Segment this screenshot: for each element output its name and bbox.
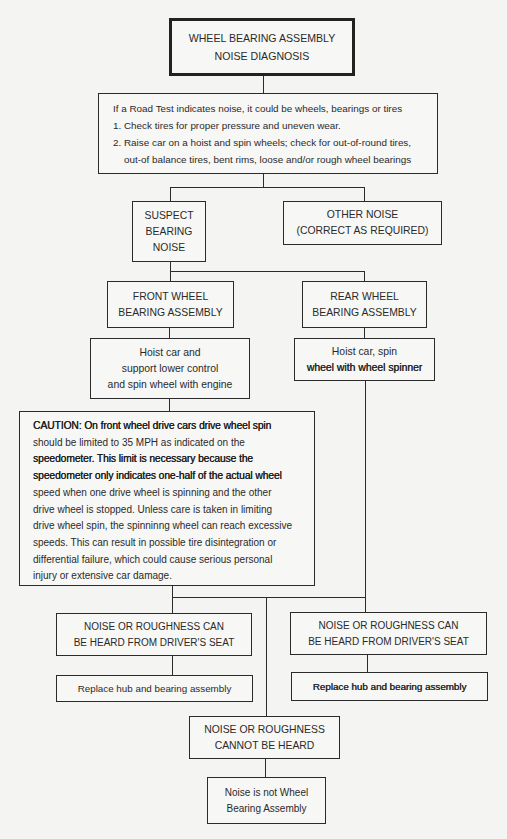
caution-line: speedometer. This limit is necessary bec… (33, 451, 253, 468)
rear-hoist-box: Hoist car, spin wheel with wheel spinner (294, 338, 435, 381)
box-line: BEARING ASSEMBLY (118, 305, 222, 321)
other-noise-box: OTHER NOISE (CORRECT AS REQUIRED) (283, 201, 442, 245)
connector (364, 271, 365, 281)
caution-line: should be limited to 35 MPH as indicated… (33, 435, 245, 452)
front-wheel-box: FRONT WHEEL BEARING ASSEMBLY (107, 281, 234, 328)
box-line: Noise is not Wheel (225, 785, 308, 801)
road-test-line: out-of balance tires, bent rims, loose a… (113, 151, 411, 168)
cannot-hear-box: NOISE OR ROUGHNESS CANNOT BE HEARD (189, 716, 340, 759)
connector (172, 655, 173, 675)
box-line: support lower control (122, 361, 218, 377)
box-line: BE HEARD FROM DRIVER'S SEAT (308, 634, 469, 650)
box-line: NOISE OR ROUGHNESS CAN (318, 618, 458, 634)
connector (364, 327, 365, 338)
caution-line: speeds. This can result in possible tire… (33, 535, 276, 552)
rear-wheel-box: REAR WHEEL BEARING ASSEMBLY (302, 281, 427, 328)
box-line: wheel with wheel spinner (307, 360, 423, 376)
box-line: Hoist car and (139, 345, 200, 361)
box-line: BEARING (146, 224, 193, 240)
connector (263, 173, 264, 187)
suspect-bearing-noise-box: SUSPECT BEARING NOISE (132, 201, 206, 262)
connector (169, 398, 170, 411)
title-line: NOISE DIAGNOSIS (215, 47, 310, 65)
box-line: FRONT WHEEL (133, 289, 208, 305)
left-replace-box: Replace hub and bearing assembly (56, 675, 253, 702)
road-test-line: 1. Check tires for proper pressure and u… (113, 117, 341, 134)
box-line: Bearing Assembly (226, 801, 306, 817)
caution-line: CAUTION: On front wheel drive cars drive… (33, 418, 271, 435)
box-line: Hoist car, spin (332, 344, 397, 360)
connector (170, 271, 365, 272)
caution-box: CAUTION: On front wheel drive cars drive… (19, 411, 315, 586)
box-line: CANNOT BE HEARD (215, 738, 315, 754)
box-line: and spin wheel with engine (108, 377, 233, 393)
connector (265, 758, 266, 777)
right-heard-box: NOISE OR ROUGHNESS CAN BE HEARD FROM DRI… (290, 612, 487, 655)
caution-line: drive wheel spin, the spinninng wheel ca… (33, 518, 292, 535)
connector (172, 597, 366, 598)
box-line: (CORRECT AS REQUIRED) (296, 223, 428, 239)
connector (263, 75, 264, 93)
box-line: Replace hub and bearing assembly (313, 679, 467, 695)
box-line: NOISE (153, 240, 185, 256)
road-test-line: If a Road Test indicates noise, it could… (113, 100, 402, 117)
box-line: BE HEARD FROM DRIVER'S SEAT (74, 635, 235, 651)
connector (172, 585, 173, 613)
box-line: NOISE OR ROUGHNESS CAN (84, 619, 224, 635)
not-wheel-bearing-box: Noise is not Wheel Bearing Assembly (207, 777, 326, 824)
box-line: REAR WHEEL (330, 289, 399, 305)
caution-line: differential failure, which could cause … (33, 552, 272, 569)
box-line: OTHER NOISE (327, 207, 399, 223)
right-replace-box: Replace hub and bearing assembly (291, 672, 488, 701)
title-box: WHEEL BEARING ASSEMBLY NOISE DIAGNOSIS (169, 18, 355, 76)
connector (170, 187, 171, 201)
caution-line: speed when one drive wheel is spinning a… (33, 485, 272, 502)
box-line: NOISE OR ROUGHNESS (204, 722, 325, 738)
connector (169, 327, 170, 338)
road-test-box: If a Road Test indicates noise, it could… (98, 93, 438, 174)
road-test-line: 2. Raise car on a hoist and spin wheels;… (113, 134, 411, 151)
caution-line: drive wheel is stopped. Unless care is t… (33, 502, 272, 519)
connector (364, 187, 365, 201)
front-hoist-box: Hoist car and support lower control and … (90, 338, 250, 399)
caution-line: speedometer only indicates one-half of t… (33, 468, 282, 485)
title-line: WHEEL BEARING ASSEMBLY (189, 29, 336, 47)
connector (367, 654, 368, 672)
box-line: BEARING ASSEMBLY (312, 305, 416, 321)
caution-line: injury or extensive car damage. (33, 568, 172, 585)
connector (266, 597, 267, 716)
box-line: SUSPECT (144, 208, 193, 224)
left-heard-box: NOISE OR ROUGHNESS CAN BE HEARD FROM DRI… (56, 613, 252, 656)
box-line: Replace hub and bearing assembly (78, 681, 232, 697)
connector (365, 380, 366, 612)
connector (170, 187, 365, 188)
